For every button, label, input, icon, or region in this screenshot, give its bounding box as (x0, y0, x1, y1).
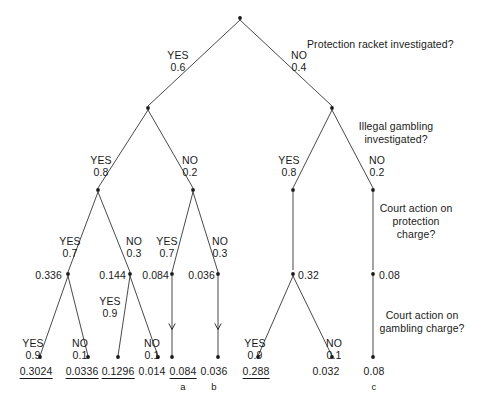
question-label: Court action onprotectioncharge? (380, 202, 453, 241)
tree-node (216, 272, 220, 276)
branch-answer: YES (167, 49, 188, 61)
question-line: Illegal gambling (359, 120, 434, 133)
branch-answer: NO (182, 154, 198, 166)
terminal-tag: a (170, 381, 197, 393)
branch-probability: 0.1 (72, 349, 88, 361)
branch-probability: 0.3 (126, 247, 142, 259)
terminal-number: 0.032 (313, 365, 340, 377)
tree-edge (68, 192, 98, 272)
branch-probability-label: YES0.8 (278, 154, 299, 178)
branch-probability-label: NO0.2 (369, 154, 385, 178)
node-value-label: 0.084 (142, 269, 169, 281)
tree-node (66, 272, 70, 276)
branch-answer: YES (99, 295, 120, 307)
node-value-label: 0.144 (99, 269, 126, 281)
node-value-label: 0.036 (188, 269, 215, 281)
branch-answer: NO (126, 235, 142, 247)
question-line: investigated? (359, 133, 434, 146)
node-value-label: 0.32 (298, 269, 319, 281)
branch-probability-label: YES0.9 (22, 337, 43, 361)
branch-probability: 0.2 (369, 166, 385, 178)
tree-node (191, 188, 195, 192)
branch-probability-label: NO0.1 (72, 337, 88, 361)
terminal-value: 0.084a (170, 365, 197, 393)
terminal-value: 0.3024 (20, 365, 53, 377)
branch-probability-label: YES0.9 (99, 295, 120, 319)
terminal-value: 0.0336 (66, 365, 99, 377)
tree-node (128, 272, 132, 276)
tree-node (330, 106, 334, 110)
question-label: Protection racket investigated? (307, 38, 454, 51)
tree-edge (193, 192, 218, 272)
terminal-value: 0.036b (201, 365, 228, 393)
edges-layer (40, 20, 373, 357)
tree-edge (40, 276, 68, 356)
terminal-number: 0.0336 (66, 365, 99, 379)
branch-probability-label: NO0.3 (126, 235, 142, 259)
branch-probability: 0.7 (156, 247, 177, 259)
tree-node (116, 355, 120, 359)
branch-probability: 0.4 (291, 61, 307, 73)
terminal-value: 0.08c (364, 365, 385, 393)
question-line: gambling charge? (379, 322, 464, 335)
question-line: protection (380, 215, 453, 228)
branch-answer: YES (22, 337, 43, 349)
branch-probability-label: YES0.7 (156, 235, 177, 259)
branch-probability: 0.9 (244, 349, 265, 361)
tree-node (216, 355, 220, 359)
branch-probability-label: NO0.4 (291, 49, 307, 73)
terminal-number: 0.036 (201, 365, 228, 377)
branch-answer: NO (326, 337, 342, 349)
terminal-number: 0.08 (364, 365, 385, 377)
terminal-value: 0.288 (243, 365, 270, 377)
terminal-number: 0.288 (243, 365, 270, 379)
branch-probability: 0.1 (144, 349, 160, 361)
branch-answer: YES (278, 154, 299, 166)
branch-probability: 0.9 (99, 307, 120, 319)
branch-probability-label: YES0.8 (90, 154, 111, 178)
tree-node (170, 272, 174, 276)
branch-probability-label: NO0.2 (182, 154, 198, 178)
branch-answer: NO (72, 337, 88, 349)
question-line: Court action on (379, 309, 464, 322)
branch-probability: 0.2 (182, 166, 198, 178)
tree-edge (240, 20, 332, 106)
node-value-label: 0.336 (35, 269, 62, 281)
branch-probability-label: YES0.7 (59, 235, 80, 259)
tree-node (170, 355, 174, 359)
tree-edge (172, 192, 193, 272)
question-line: charge? (380, 228, 453, 241)
branch-probability: 0.7 (59, 247, 80, 259)
tree-node (146, 106, 150, 110)
branch-answer: YES (244, 337, 265, 349)
decision-tree-diagram: Protection racket investigated?Illegal g… (0, 0, 491, 405)
question-line: Court action on (380, 202, 453, 215)
terminal-value: 0.014 (139, 365, 166, 377)
branch-answer: YES (90, 154, 111, 166)
tree-node (238, 16, 242, 20)
branch-probability: 0.6 (167, 61, 188, 73)
branch-probability-label: NO0.3 (212, 235, 228, 259)
terminal-value: 0.1296 (102, 365, 135, 377)
tree-edge (98, 192, 130, 272)
branch-answer: NO (212, 235, 228, 247)
tree-node (96, 188, 100, 192)
terminal-value: 0.032 (313, 365, 340, 377)
branch-answer: YES (156, 235, 177, 247)
tree-node (291, 272, 295, 276)
branch-probability-label: YES0.6 (167, 49, 188, 73)
branch-probability: 0.1 (326, 349, 342, 361)
branch-answer: YES (59, 235, 80, 247)
terminal-tag: b (201, 381, 228, 393)
branch-answer: NO (144, 337, 160, 349)
branch-probability-label: NO0.1 (144, 337, 160, 361)
branch-answer: NO (291, 49, 307, 61)
branch-probability: 0.9 (22, 349, 43, 361)
nodes-layer (38, 16, 375, 359)
node-value-label: 0.08 (379, 269, 400, 281)
question-line: Protection racket investigated? (307, 38, 454, 51)
branch-probability: 0.8 (278, 166, 299, 178)
tree-edge (148, 20, 240, 106)
terminal-number: 0.014 (139, 365, 166, 377)
branch-probability-label: YES0.9 (244, 337, 265, 361)
